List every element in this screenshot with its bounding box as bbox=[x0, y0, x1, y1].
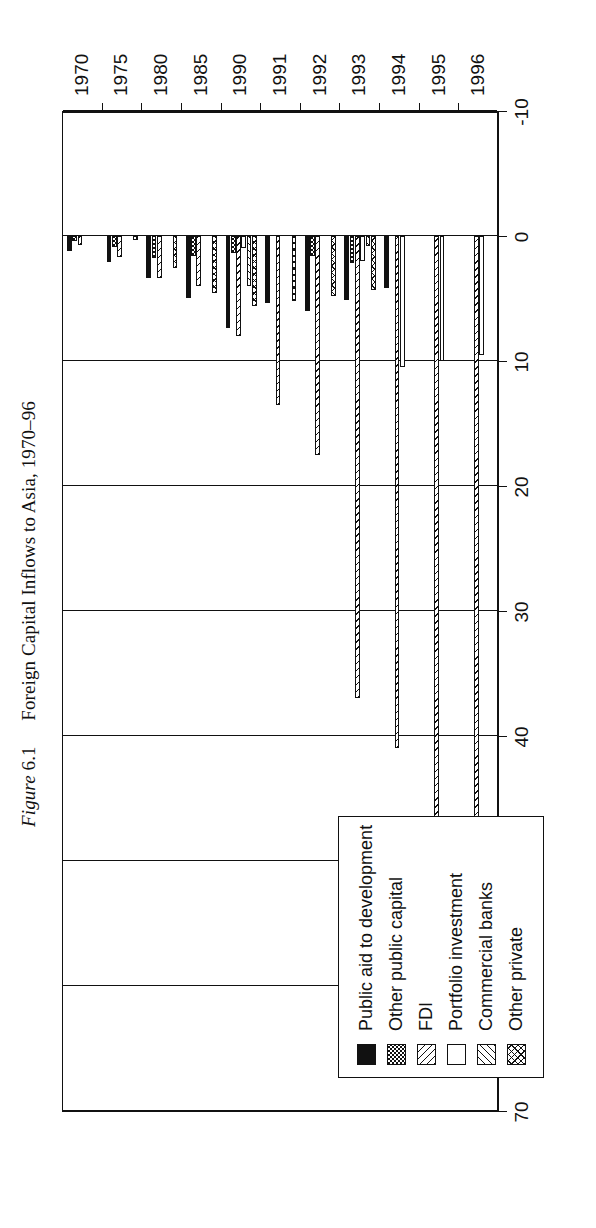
legend-item-fdi: FDI bbox=[411, 831, 441, 1065]
bar-1990-public-aid-to-development bbox=[226, 236, 231, 329]
category-label-1992: 1992 bbox=[309, 54, 331, 96]
bar-1980-public-aid-to-development bbox=[146, 236, 151, 279]
category-label-1990: 1990 bbox=[229, 54, 251, 96]
value-tick-label-70: 70 bbox=[511, 1101, 533, 1122]
bar-1980-fdi bbox=[157, 236, 162, 279]
bar-1985-other-public-capital bbox=[191, 236, 196, 256]
caption-figure-word: Figure bbox=[18, 775, 39, 827]
legend-swatch-portfolio bbox=[447, 1044, 466, 1065]
bar-group-1970 bbox=[63, 113, 103, 1111]
legend-label-banks: Commercial banks bbox=[477, 882, 495, 1031]
bar-1992-other-public-capital bbox=[310, 236, 315, 256]
bar-1993-fdi bbox=[355, 236, 360, 699]
bar-1994-public-aid-to-development bbox=[384, 236, 389, 289]
bar-1993-public-aid-to-development bbox=[344, 236, 349, 300]
category-label-1993: 1993 bbox=[348, 54, 370, 96]
category-axis-spine bbox=[62, 111, 498, 112]
value-tick-label-10: 10 bbox=[511, 351, 533, 372]
legend-item-portfolio: Portfolio investment bbox=[441, 831, 471, 1065]
value-tick-40 bbox=[498, 736, 507, 737]
value-tick-label-40: 40 bbox=[511, 726, 533, 747]
bar-1975-public-aid-to-development bbox=[107, 236, 112, 262]
bar-1990-other-public-capital bbox=[231, 236, 236, 254]
value-tick-10 bbox=[498, 361, 507, 362]
figure-caption: Figure 6.1 Foreign Capital Inflows to As… bbox=[18, 0, 40, 1228]
bar-group-1991 bbox=[261, 113, 301, 1111]
bar-1990-commercial-banks bbox=[247, 236, 252, 286]
legend-label-portfolio: Portfolio investment bbox=[447, 873, 465, 1031]
category-tick-5 bbox=[260, 103, 261, 112]
bar-1994-fdi bbox=[395, 236, 400, 749]
bar-1990-fdi bbox=[236, 236, 241, 336]
bar-1975-other-public-capital bbox=[112, 236, 117, 247]
bar-1993-other-private bbox=[371, 236, 376, 290]
value-tick-30 bbox=[498, 611, 507, 612]
bar-1970-fdi bbox=[78, 236, 83, 245]
category-label-1996: 1996 bbox=[467, 54, 489, 96]
legend-item-aid: Public aid to development bbox=[351, 831, 381, 1065]
bar-group-1975 bbox=[103, 113, 143, 1111]
category-tick-4 bbox=[221, 103, 222, 112]
legend-label-other_public: Other public capital bbox=[387, 877, 405, 1031]
bar-1975-fdi bbox=[117, 236, 122, 257]
category-label-1994: 1994 bbox=[388, 54, 410, 96]
legend-label-fdi: FDI bbox=[417, 1002, 435, 1031]
figure-container: Figure 6.1 Foreign Capital Inflows to As… bbox=[0, 0, 596, 1228]
bar-1990-other-private bbox=[252, 236, 257, 306]
bar-group-1980 bbox=[142, 113, 182, 1111]
bar-1980-other-private bbox=[173, 236, 178, 269]
value-tick-20 bbox=[498, 486, 507, 487]
value-tick-0 bbox=[498, 236, 507, 237]
legend-box: Public aid to developmentOther public ca… bbox=[338, 816, 544, 1078]
legend-swatch-other_public bbox=[387, 1044, 406, 1065]
bar-1980-other-public-capital bbox=[152, 236, 157, 259]
legend-swatch-banks bbox=[477, 1044, 496, 1065]
value-tick-70 bbox=[498, 1111, 507, 1112]
legend-swatch-aid bbox=[357, 1044, 376, 1065]
category-tick-3 bbox=[181, 103, 182, 112]
bar-1991-public-aid-to-development bbox=[265, 236, 270, 304]
bar-group-1990 bbox=[222, 113, 262, 1111]
bar-1993-commercial-banks bbox=[366, 236, 371, 246]
bar-1970-public-aid-to-development bbox=[67, 236, 72, 251]
bar-1970-other-public-capital bbox=[72, 236, 77, 241]
caption-title: Foreign Capital Inflows to Asia, 1970–96 bbox=[18, 401, 39, 721]
category-label-1980: 1980 bbox=[150, 54, 172, 96]
legend-item-other_private: Other private bbox=[501, 831, 531, 1065]
bar-1994-portfolio-investment bbox=[400, 236, 405, 367]
category-tick-8 bbox=[379, 103, 380, 112]
bar-1995-portfolio-investment bbox=[440, 236, 445, 361]
bar-group-1992 bbox=[301, 113, 341, 1111]
category-label-1995: 1995 bbox=[428, 54, 450, 96]
category-label-1975: 1975 bbox=[110, 54, 132, 96]
bar-1992-fdi bbox=[315, 236, 320, 455]
bar-1991-other-private bbox=[292, 236, 297, 301]
legend-swatch-other_private bbox=[507, 1044, 526, 1065]
category-tick-10 bbox=[458, 103, 459, 112]
bar-1996-portfolio-investment bbox=[479, 236, 484, 355]
bar-1985-public-aid-to-development bbox=[186, 236, 191, 299]
bar-group-1985 bbox=[182, 113, 222, 1111]
category-tick-9 bbox=[419, 103, 420, 112]
legend-item-other_public: Other public capital bbox=[381, 831, 411, 1065]
category-tick-1 bbox=[102, 103, 103, 112]
bar-1985-fdi bbox=[196, 236, 201, 286]
value-tick-label--10: -10 bbox=[511, 98, 533, 125]
bar-1995-fdi bbox=[434, 236, 439, 899]
value-tick--10 bbox=[498, 111, 507, 112]
value-tick-label-0: 0 bbox=[511, 232, 533, 243]
category-tick-2 bbox=[141, 103, 142, 112]
bar-1985-other-private bbox=[212, 236, 217, 294]
legend-label-other_private: Other private bbox=[507, 927, 525, 1031]
category-label-1985: 1985 bbox=[190, 54, 212, 96]
value-tick-label-20: 20 bbox=[511, 476, 533, 497]
legend-item-banks: Commercial banks bbox=[471, 831, 501, 1065]
bar-1993-other-public-capital bbox=[350, 236, 355, 264]
bar-1992-public-aid-to-development bbox=[305, 236, 310, 311]
bar-1990-portfolio-investment bbox=[241, 236, 246, 249]
category-label-1970: 1970 bbox=[71, 54, 93, 96]
bar-1991-fdi bbox=[276, 236, 281, 405]
legend-label-aid: Public aid to development bbox=[357, 825, 375, 1031]
category-tick-6 bbox=[300, 103, 301, 112]
bar-1975-other-private bbox=[133, 236, 138, 240]
